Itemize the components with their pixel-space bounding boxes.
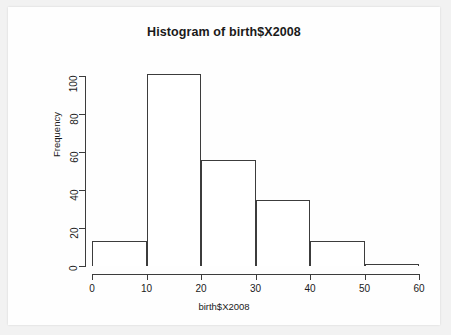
y-axis-tick-label: 20	[69, 228, 80, 239]
y-axis-tick-label: 80	[69, 114, 80, 125]
x-axis-tick-label: 10	[132, 283, 162, 294]
x-axis-tick-label: 30	[241, 283, 271, 294]
x-axis-tick-label: 60	[404, 283, 434, 294]
y-axis-tick-label: 0	[69, 266, 80, 272]
x-axis-tick	[310, 274, 311, 280]
y-axis-tick-label: 60	[69, 152, 80, 163]
histogram-bar	[147, 74, 202, 266]
y-axis-tick	[79, 152, 85, 153]
y-axis-tick	[79, 114, 85, 115]
y-axis-tick	[79, 266, 85, 267]
x-axis-tick-label: 50	[350, 283, 380, 294]
y-axis-title: Frequency	[51, 112, 62, 157]
histogram-bar	[201, 160, 256, 266]
y-axis-tick-label: 100	[69, 76, 80, 93]
histogram-bar	[310, 241, 365, 266]
x-axis-tick	[92, 274, 93, 280]
x-axis-tick-label: 0	[77, 283, 107, 294]
x-axis-tick-label: 20	[186, 283, 216, 294]
x-axis-tick-label: 40	[295, 283, 325, 294]
y-axis-tick	[79, 190, 85, 191]
y-axis-tick	[79, 76, 85, 77]
x-axis-title: birth$X2008	[8, 301, 440, 312]
y-axis-tick-label: 40	[69, 190, 80, 201]
plot-card: Histogram of birth$X2008 020406080100 01…	[8, 7, 440, 325]
x-axis-tick	[201, 274, 202, 280]
histogram-bar	[92, 241, 147, 266]
histogram-bar	[256, 200, 311, 267]
x-axis-tick	[419, 274, 420, 280]
histogram-bar	[365, 264, 420, 266]
x-axis-tick	[256, 274, 257, 280]
x-axis-tick	[147, 274, 148, 280]
plot-area	[92, 47, 419, 266]
x-axis-tick	[365, 274, 366, 280]
y-axis-tick	[79, 228, 85, 229]
chart-screenshot: Histogram of birth$X2008 020406080100 01…	[0, 0, 451, 335]
y-axis-line	[85, 76, 86, 267]
chart-title: Histogram of birth$X2008	[8, 25, 440, 39]
